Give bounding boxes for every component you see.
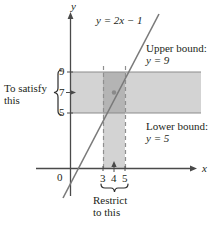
line-equation-label: y = 2x − 1 [96,14,143,26]
x-tick-label-3: 3 [100,172,106,184]
origin-label: 0 [57,171,63,183]
lower-bound-equation: y = 5 [146,132,208,144]
x-axis-arrowhead [190,166,197,172]
y-axis-arrowhead [68,12,74,19]
lower-bound-title: Lower bound: [146,120,208,132]
satisfy-annotation-line1: To satisfy [4,82,47,94]
restrict-band [103,113,125,168]
intersection-point [112,90,116,94]
line-equation-text: y = 2x − 1 [96,14,143,26]
upper-bound-annotation: Upper bound: y = 9 [146,42,207,66]
satisfy-annotation-line2: this [4,94,47,106]
y-tick-label-7: 7 [59,86,65,98]
lower-bound-annotation: Lower bound: y = 5 [146,120,208,144]
x-tick-label-4: 4 [111,172,117,184]
y-tick-label-5: 5 [59,106,65,118]
restrict-brace [101,184,128,192]
satisfy-band [70,72,201,113]
x-tick-label-5: 5 [122,172,128,184]
restrict-annotation-line1: Restrict [93,194,127,206]
restrict-annotation-line2: to this [93,206,127,218]
upper-bound-equation: y = 9 [146,54,207,66]
graph-figure: y x 0 y = 2x − 1 9 7 5 3 4 5 Upper bound… [0,0,217,229]
x-axis-label: x [202,162,207,174]
y-tick-label-9: 9 [59,65,65,77]
restrict-annotation: Restrict to this [93,194,127,218]
upper-bound-title: Upper bound: [146,42,207,54]
satisfy-annotation: To satisfy this [4,82,47,106]
y-axis-label: y [71,0,76,12]
